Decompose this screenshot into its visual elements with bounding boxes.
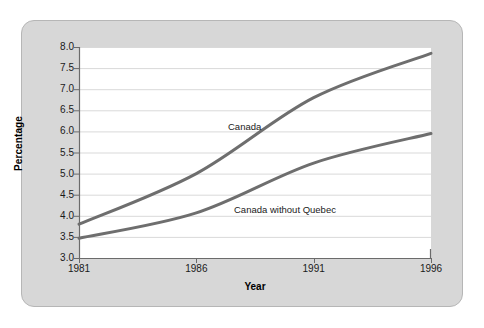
x-tick-label: 1996 bbox=[406, 263, 456, 274]
x-axis-title: Year bbox=[79, 281, 431, 292]
x-tick-label: 1991 bbox=[289, 263, 339, 274]
y-axis-title: Percentage bbox=[13, 104, 24, 184]
x-tick-label: 1981 bbox=[54, 263, 104, 274]
x-axis-tick-labels: 1981198619911996 bbox=[0, 0, 484, 328]
series-annotation-canada-without-quebec: Canada without Quebec bbox=[234, 204, 336, 215]
series-annotation-canada: Canada bbox=[228, 121, 261, 132]
line-chart-figure: 3.03.54.04.55.05.56.06.57.07.58.0 198119… bbox=[0, 0, 484, 328]
x-tick-label: 1986 bbox=[171, 263, 221, 274]
